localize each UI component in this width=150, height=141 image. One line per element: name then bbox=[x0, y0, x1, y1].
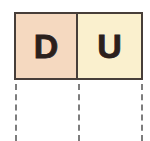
place-value-cell-ones: U bbox=[78, 14, 141, 78]
dashed-guide-middle-line bbox=[78, 84, 80, 141]
dashed-guide-right-line bbox=[141, 84, 143, 141]
place-value-figure: D U bbox=[0, 0, 150, 141]
place-value-box: D U bbox=[14, 12, 143, 80]
place-value-label-ones: U bbox=[97, 29, 122, 63]
place-value-label-tens: D bbox=[34, 29, 59, 63]
dashed-guides-group bbox=[0, 80, 150, 141]
place-value-cell-tens: D bbox=[16, 14, 78, 78]
dashed-guide-left-line bbox=[15, 84, 17, 141]
